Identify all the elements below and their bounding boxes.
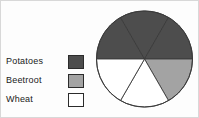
pie-chart-figure: Potatoes Beetroot Wheat [0, 0, 199, 118]
legend-item-beetroot: Beetroot [6, 71, 84, 90]
pie-chart-svg [95, 3, 194, 115]
legend-label-potatoes: Potatoes [6, 52, 64, 71]
legend-swatch-beetroot [68, 74, 84, 88]
legend-swatch-wheat [68, 93, 84, 107]
legend: Potatoes Beetroot Wheat [6, 52, 84, 109]
legend-label-wheat: Wheat [6, 90, 64, 109]
legend-item-wheat: Wheat [6, 90, 84, 109]
legend-label-beetroot: Beetroot [6, 71, 64, 90]
legend-swatch-potatoes [68, 55, 84, 69]
legend-item-potatoes: Potatoes [6, 52, 84, 71]
pie-chart [95, 3, 194, 115]
